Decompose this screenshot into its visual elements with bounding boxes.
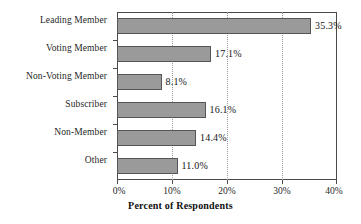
category-label-subscriber: Subscriber: [0, 99, 107, 109]
x-tick-10: [172, 180, 173, 184]
x-tick-label-0: 0%: [113, 186, 126, 197]
x-tick-label-40: 40%: [325, 186, 342, 197]
bar-other[interactable]: [117, 158, 178, 174]
x-tick-label-20: 20%: [218, 186, 235, 197]
bar-leading-member[interactable]: [117, 18, 311, 34]
x-tick-30: [282, 180, 283, 184]
plot-border-right: [336, 12, 337, 180]
y-tick-3: [113, 96, 117, 97]
gridline-30: [282, 12, 283, 180]
x-tick-40: [336, 180, 337, 184]
bar-value-subscriber: 16.1%: [210, 102, 237, 118]
y-tick-2: [113, 68, 117, 69]
x-tick-0: [117, 180, 118, 184]
bar-non-member[interactable]: [117, 130, 196, 146]
category-label-non-member: Non-Member: [0, 127, 107, 137]
x-tick-label-30: 30%: [273, 186, 290, 197]
bar-value-other: 11.0%: [182, 158, 208, 174]
y-tick-4: [113, 124, 117, 125]
y-tick-5: [113, 152, 117, 153]
bar-chart: Leading Member Voting Member Non-Voting …: [0, 0, 361, 224]
plot-corner-tick-top-left: [117, 12, 118, 17]
category-label-other: Other: [0, 155, 107, 165]
x-tick-20: [227, 180, 228, 184]
category-label-leading-member: Leading Member: [0, 15, 107, 25]
plot-area: 35.3% 17.1% 8.1% 16.1% 14.4% 11.0%: [117, 12, 337, 180]
bar-value-non-member: 14.4%: [200, 130, 227, 146]
plot-border-left: [117, 12, 118, 180]
bar-subscriber[interactable]: [117, 102, 206, 118]
bar-value-non-voting-member: 8.1%: [166, 74, 188, 90]
category-label-voting-member: Voting Member: [0, 43, 107, 53]
category-axis-labels: Leading Member Voting Member Non-Voting …: [0, 12, 112, 180]
gridline-20: [227, 12, 228, 180]
bar-value-voting-member: 17.1%: [215, 46, 242, 62]
x-tick-label-10: 10%: [163, 186, 180, 197]
category-label-non-voting-member: Non-Voting Member: [0, 71, 107, 81]
y-tick-1: [113, 40, 117, 41]
x-axis-title: Percent of Respondents: [0, 200, 361, 211]
plot-corner-tick-top-right: [336, 12, 337, 17]
bar-value-leading-member: 35.3%: [315, 18, 342, 34]
x-axis: 0% 10% 20% 30% 40%: [117, 180, 337, 202]
gridline-10: [172, 12, 173, 180]
bar-non-voting-member[interactable]: [117, 74, 162, 90]
bar-voting-member[interactable]: [117, 46, 211, 62]
